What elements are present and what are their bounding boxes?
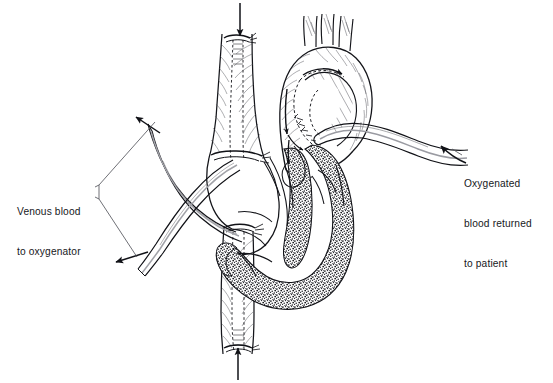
arterial-callout-line-1: Oxygenated — [464, 177, 532, 190]
oxygenated-blood-callout: Oxygenated blood returned to patient — [464, 151, 532, 296]
coronary-flow-arrow-3 — [288, 140, 289, 164]
arterial-callout-line-3: to patient — [464, 257, 532, 270]
venous-callout-line-1: Venous blood — [17, 205, 81, 218]
venous-blood-callout: Venous blood to oxygenator — [17, 179, 81, 285]
arterial-callout-line-2: blood returned — [464, 217, 532, 230]
venous-callout-line-2: to oxygenator — [17, 245, 81, 258]
bypass-cannulation-figure: Venous blood to oxygenator Oxygenated bl… — [0, 0, 553, 383]
